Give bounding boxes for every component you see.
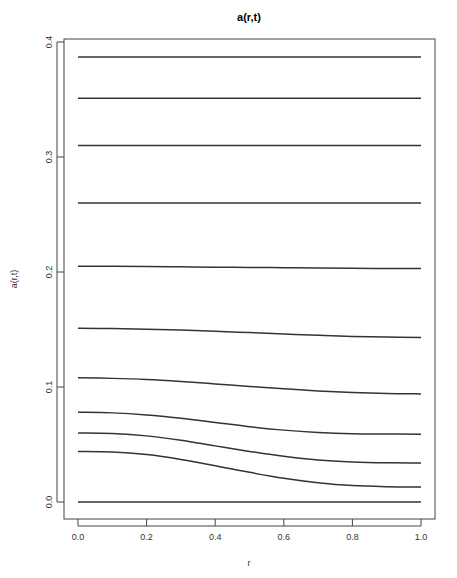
x-tick-label: 0.0 xyxy=(72,532,85,542)
series-line-t10 xyxy=(78,451,421,487)
x-axis: 0.00.20.40.60.81.0 xyxy=(72,519,428,542)
plot-frame xyxy=(64,39,435,519)
y-tick-label: 0.0 xyxy=(44,496,54,509)
y-tick-label: 0.1 xyxy=(44,381,54,394)
y-tick-label: 0.3 xyxy=(44,151,54,164)
series-line-t8 xyxy=(78,412,421,434)
x-tick-label: 1.0 xyxy=(415,532,428,542)
series-line-t9 xyxy=(78,433,421,463)
x-tick-label: 0.2 xyxy=(140,532,153,542)
x-axis-label: r xyxy=(248,558,251,568)
y-axis-label: a(r,t) xyxy=(9,270,19,289)
series-line-t7 xyxy=(78,378,421,394)
series-line-t5 xyxy=(78,266,421,268)
x-tick-label: 0.4 xyxy=(209,532,222,542)
x-tick-label: 0.8 xyxy=(346,532,359,542)
y-tick-label: 0.2 xyxy=(44,266,54,279)
chart-canvas: a(r,t) 0.00.20.40.60.81.0 0.00.10.20.30.… xyxy=(0,0,457,578)
chart-title: a(r,t) xyxy=(237,11,261,23)
x-tick-label: 0.6 xyxy=(278,532,291,542)
series-line-t6 xyxy=(78,328,421,337)
y-tick-label: 0.4 xyxy=(44,36,54,49)
y-axis: 0.00.10.20.30.4 xyxy=(44,36,64,509)
data-series xyxy=(78,57,421,502)
